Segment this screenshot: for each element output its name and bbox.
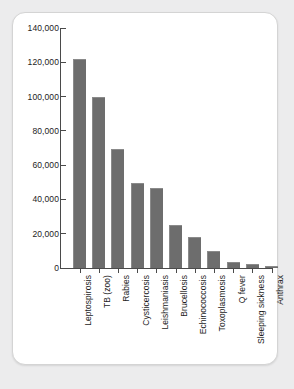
chart-card: 140,000120,000100,00080,00060,00040,0002… — [12, 12, 278, 365]
bar — [188, 237, 201, 268]
x-axis-label: Cysticercosis — [141, 275, 151, 326]
x-axis-label: Leishmaniasis — [160, 275, 170, 330]
x-axis-tick-mark — [80, 269, 81, 273]
y-axis-tick: 60,000 — [13, 160, 67, 170]
bar — [131, 183, 144, 268]
bar — [92, 97, 105, 268]
y-axis-tick-mark — [60, 28, 66, 29]
bar — [111, 149, 124, 268]
y-axis-tick: 20,000 — [13, 229, 67, 239]
x-axis-tick-mark — [118, 269, 119, 273]
y-axis-tick: 120,000 — [13, 57, 67, 67]
x-axis-tick-mark — [272, 269, 273, 273]
bar — [73, 59, 86, 268]
x-axis-label: Anthrax — [275, 275, 285, 305]
x-axis-label: Brucellosis — [179, 275, 189, 317]
x-axis-tick-mark — [137, 269, 138, 273]
x-axis-label: TB (zoo) — [102, 275, 112, 308]
y-axis-tick: 80,000 — [13, 126, 67, 136]
y-axis-tick: 0 — [13, 263, 67, 273]
y-axis-tick: 100,000 — [13, 92, 67, 102]
bar — [246, 264, 259, 268]
x-axis-tick-mark — [176, 269, 177, 273]
y-axis-tick-label: 0 — [54, 263, 59, 273]
y-axis-tick-mark — [60, 268, 66, 269]
x-axis-tick-mark — [252, 269, 253, 273]
y-axis-tick-mark — [60, 62, 66, 63]
x-axis-label: Q fever — [237, 275, 247, 303]
x-axis-label: Sleeping sickness — [256, 275, 266, 344]
x-axis-line — [60, 268, 273, 269]
y-axis-tick-mark — [60, 199, 66, 200]
bar-chart: 140,000120,000100,00080,00060,00040,0002… — [13, 13, 279, 366]
x-axis-label: Echinococcosis — [198, 275, 208, 334]
y-axis-tick-label: 120,000 — [28, 57, 59, 67]
x-axis-tick-mark — [99, 269, 100, 273]
y-axis-tick-mark — [60, 233, 66, 234]
y-axis-tick-label: 60,000 — [32, 160, 59, 170]
x-axis-tick-mark — [195, 269, 196, 273]
x-axis-tick-mark — [233, 269, 234, 273]
x-axis-tick-mark — [156, 269, 157, 273]
y-axis-tick: 140,000 — [13, 23, 67, 33]
y-axis-tick-label: 20,000 — [32, 229, 59, 239]
bar — [169, 225, 182, 268]
bar — [265, 266, 278, 268]
y-axis-tick-label: 140,000 — [28, 23, 59, 33]
y-axis-tick-label: 40,000 — [32, 194, 59, 204]
bar — [227, 262, 240, 268]
y-axis-tick-label: 80,000 — [32, 126, 59, 136]
x-axis-label: Toxoplasmosis — [217, 275, 227, 331]
y-axis-tick: 40,000 — [13, 194, 67, 204]
y-axis-tick-label: 100,000 — [28, 92, 59, 102]
y-axis-tick-mark — [60, 96, 66, 97]
y-axis-tick-mark — [60, 130, 66, 131]
bar — [207, 251, 220, 268]
bar — [150, 188, 163, 268]
x-axis-label: Rabies — [121, 275, 131, 302]
x-axis-label: Leptospirosis — [83, 275, 93, 326]
y-axis-tick-mark — [60, 165, 66, 166]
x-axis-tick-mark — [214, 269, 215, 273]
